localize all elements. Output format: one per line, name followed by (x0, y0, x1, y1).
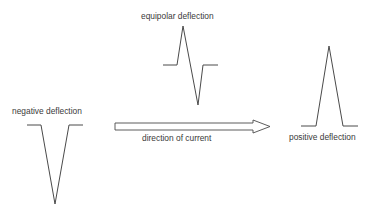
current-direction-arrow (115, 120, 270, 133)
negative-label: negative deflection (12, 107, 82, 115)
positive-waveform (301, 46, 358, 126)
positive-label: positive deflection (289, 133, 356, 141)
direction-label: direction of current (142, 134, 211, 142)
equipolar-waveform (163, 26, 218, 105)
equipolar-label: equipolar deflection (141, 12, 214, 20)
negative-waveform (27, 125, 83, 204)
